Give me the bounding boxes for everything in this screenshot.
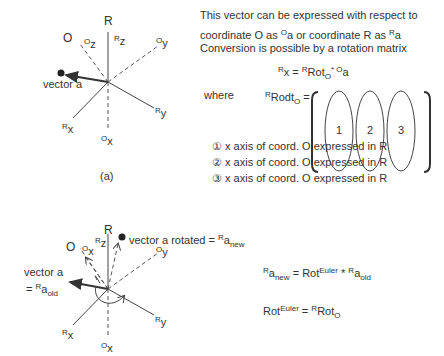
vector-a-label: vector a (43, 78, 82, 91)
axis-o-rotated-b (86, 258, 108, 289)
axis-rotated-new-b (108, 244, 118, 289)
vector-old-label-line-2: = Raold (26, 280, 58, 300)
description-line-2: coordinate O as Oa or coordinate R as Ra (200, 26, 401, 42)
equation-euler-equivalence: RotEuler = RRotO (263, 302, 341, 322)
axis-rz-label: Rz (114, 32, 125, 48)
matrix-column-1-label: 1 (336, 124, 342, 137)
axis-oz-label: Oz (84, 35, 96, 51)
axis-ry-label-b: Ry (155, 313, 166, 329)
axis-o-top-label-b: Ox (82, 242, 94, 258)
matrix-right-bracket (424, 92, 430, 172)
axis-rx-b (73, 289, 108, 325)
equation-euler-rotation: Ranew = RotEuler * Raold (263, 264, 371, 284)
axis-rz-label-b: Rz (95, 234, 106, 250)
axis-rx-label: Rx (62, 120, 73, 136)
axis-ox-label: Ox (101, 132, 113, 148)
matrix-column-3-label: 3 (398, 124, 404, 137)
frame-r-label: R (104, 15, 113, 28)
axis-oy (108, 46, 158, 82)
axis-oy-b (108, 253, 158, 289)
frame-o-label-b: O (66, 241, 75, 254)
diagram-a-caption: (a) (100, 170, 113, 183)
description-line-3: Conversion is possible by a rotation mat… (200, 42, 407, 55)
frame-o-label: O (63, 32, 72, 45)
axis-ry (108, 82, 154, 108)
matrix-lhs: RRodtO = (265, 88, 310, 108)
rotation-arc-icon (95, 286, 124, 303)
axis-oy-label: Oy (156, 34, 168, 50)
vector-a-point (58, 70, 65, 77)
axis-oy-label-b: Oy (156, 243, 168, 259)
legend-item-1: ① x axis of coord. O expressed in R (212, 140, 387, 153)
vector-rotated-label: vector a rotated = Ranew (129, 231, 245, 251)
vector-a-rotated-point (119, 234, 126, 241)
axis-ry-label: Ry (155, 104, 166, 120)
equation-conversion: Rx = RRotO* Oa (278, 63, 349, 83)
axis-rx-label-b: Rx (62, 326, 73, 342)
axis-ox-label-b: Ox (101, 339, 113, 355)
description-line-1: This vector can be expressed with respec… (200, 9, 418, 22)
where-label: where (204, 89, 234, 102)
vector-old-label-line-1: vector a (24, 266, 63, 279)
vector-a-old-arrow (70, 282, 108, 289)
legend-item-3: ③ x axis of coord. O expressed in R (212, 172, 387, 185)
matrix-column-2-label: 2 (367, 124, 373, 137)
legend-item-2: ② x axis of coord. O expressed in R (212, 156, 387, 169)
